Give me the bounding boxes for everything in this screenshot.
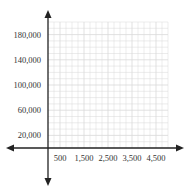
y-tick-label: 180,000 xyxy=(13,30,41,40)
x-tick-label: 4,500 xyxy=(146,153,165,163)
y-tick-label: 140,000 xyxy=(13,55,41,65)
y-tick-label: 100,000 xyxy=(13,80,41,90)
y-axis-down-arrow-icon xyxy=(45,178,52,186)
coordinate-grid-chart: 5001,5002,5003,5004,500 20,00060,000100,… xyxy=(0,0,190,190)
x-axis-right-arrow-icon xyxy=(176,145,184,152)
x-tick-label: 3,500 xyxy=(122,153,141,163)
y-tick-labels: 20,00060,000100,000140,000180,000 xyxy=(13,30,41,141)
grid-lines xyxy=(48,22,168,148)
x-axis-left-arrow-icon xyxy=(6,145,14,152)
x-tick-label: 2,500 xyxy=(98,153,117,163)
y-tick-label: 20,000 xyxy=(18,130,41,140)
x-tick-labels: 5001,5002,5003,5004,500 xyxy=(54,153,166,163)
y-axis-up-arrow-icon xyxy=(45,10,52,18)
x-tick-label: 500 xyxy=(54,153,67,163)
y-tick-label: 60,000 xyxy=(18,105,41,115)
x-tick-label: 1,500 xyxy=(74,153,93,163)
